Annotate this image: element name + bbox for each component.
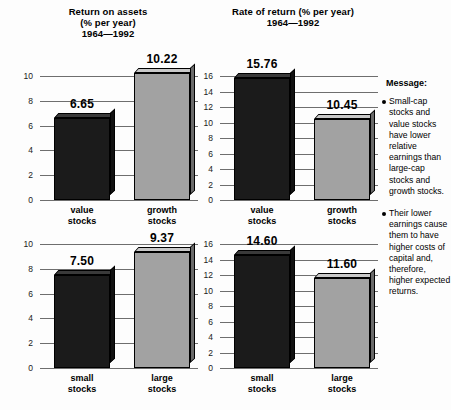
y-axis-tick-label: 6 — [12, 122, 33, 130]
y-axis-tick-label: 8 — [12, 265, 33, 273]
plot-area: 024681012141615.76valuestocks10.45growth… — [192, 62, 382, 212]
gridline — [40, 368, 198, 369]
bar-front-face — [134, 252, 190, 368]
y-axis-tick-label: 4 — [12, 314, 33, 322]
y-axis-tick-label: 2 — [12, 171, 33, 179]
gridline — [220, 200, 378, 201]
bar[interactable] — [314, 278, 370, 368]
category-line-1: large — [302, 373, 382, 384]
title-line-2: 1964—1992 — [203, 17, 383, 28]
title-line-3: 1964—1992 — [18, 28, 198, 39]
y-axis-tick-label: 10 — [192, 287, 213, 295]
category-line-1: growth — [302, 205, 382, 216]
bar-top-face — [234, 250, 295, 255]
y-axis-tick-label: 8 — [192, 302, 213, 310]
bar[interactable] — [234, 78, 290, 200]
bar-side-face — [370, 109, 375, 194]
bar-side-face — [290, 68, 295, 195]
bar-value-label: 10.45 — [302, 98, 382, 112]
bar[interactable] — [54, 275, 110, 368]
x-axis-category-label: valuestocks — [222, 205, 302, 227]
plot-area: 02468107.50smallstocks9.37largestocks — [12, 230, 202, 380]
title-line-1: Rate of return (% per year) — [203, 6, 383, 17]
bullet-dot-icon — [382, 212, 386, 216]
plot-area: 024681012141614.60smallstocks11.60larges… — [192, 230, 382, 380]
y-axis-tick-label: 14 — [192, 88, 213, 96]
category-line-2: stocks — [302, 216, 382, 227]
y-axis-tick-label: 6 — [12, 290, 33, 298]
y-axis-tick-label: 6 — [192, 318, 213, 326]
bar-front-face — [234, 255, 290, 368]
bar-value-label: 10.22 — [122, 52, 202, 66]
bar[interactable] — [54, 118, 110, 200]
bar[interactable] — [134, 252, 190, 368]
y-axis-tick-label: 8 — [12, 97, 33, 105]
y-axis-tick-label: 4 — [192, 333, 213, 341]
message-title: Message: — [386, 78, 451, 89]
bar-top-face — [54, 270, 115, 275]
message-panel: Message: Small-cap stocks and value stoc… — [382, 78, 451, 309]
chart-title-return-on-assets: Return on assets (% per year) 1964—1992 — [18, 6, 198, 39]
bar-value-label: 14.60 — [222, 234, 302, 248]
y-axis-tick-label: 0 — [192, 364, 213, 372]
category-line-1: value — [42, 205, 122, 216]
y-axis-tick-label: 14 — [192, 256, 213, 264]
y-axis-tick-label: 12 — [192, 103, 213, 111]
chart-title-rate-of-return: Rate of return (% per year) 1964—1992 — [203, 6, 383, 28]
bar-front-face — [134, 73, 190, 200]
x-axis-category-label: valuestocks — [42, 205, 122, 227]
x-axis-category-label: smallstocks — [222, 373, 302, 395]
chart-panel-rate-of-return-size: 024681012141614.60smallstocks11.60larges… — [192, 230, 382, 380]
y-axis-tick-label: 10 — [12, 240, 33, 248]
x-axis-category-label: growthstocks — [302, 205, 382, 227]
y-axis-tick-label: 2 — [192, 349, 213, 357]
slide-canvas: Return on assets (% per year) 1964—1992 … — [0, 0, 451, 410]
message-bullet-text: Their lower earnings cause them to have … — [389, 208, 451, 298]
bar-side-face — [110, 265, 115, 363]
category-line-1: small — [42, 373, 122, 384]
y-axis-tick-label: 10 — [192, 119, 213, 127]
category-line-1: large — [122, 373, 202, 384]
bar-front-face — [54, 275, 110, 368]
bar-value-label: 6.65 — [42, 97, 122, 111]
title-line-2: (% per year) — [18, 17, 198, 28]
plot-area: 02468106.65valuestocks10.22growthstocks — [12, 62, 202, 212]
y-axis-tick-label: 12 — [192, 271, 213, 279]
bar-value-label: 15.76 — [222, 57, 302, 71]
bar-front-face — [314, 119, 370, 200]
y-axis-tick-label: 0 — [192, 196, 213, 204]
y-axis-tick-label: 2 — [192, 181, 213, 189]
category-line-1: value — [222, 205, 302, 216]
y-axis-tick-label: 16 — [192, 72, 213, 80]
message-bullet-item: Their lower earnings cause them to have … — [382, 208, 451, 298]
bar-side-face — [290, 245, 295, 363]
category-line-2: stocks — [222, 216, 302, 227]
y-axis-tick-label: 16 — [192, 240, 213, 248]
bar-top-face — [314, 273, 375, 278]
bar-side-face — [370, 269, 375, 363]
category-line-2: stocks — [302, 384, 382, 395]
bar-side-face — [110, 108, 115, 195]
bar[interactable] — [234, 255, 290, 368]
x-axis-category-label: largestocks — [302, 373, 382, 395]
bar-value-label: 11.60 — [302, 257, 382, 271]
y-axis-tick-label: 8 — [192, 134, 213, 142]
chart-panel-rate-of-return: 024681012141615.76valuestocks10.45growth… — [192, 62, 382, 212]
x-axis-category-label: largestocks — [122, 373, 202, 395]
chart-panel-return-on-assets-size: 02468107.50smallstocks9.37largestocks — [12, 230, 202, 380]
y-axis-tick-label: 4 — [12, 146, 33, 154]
bar-top-face — [134, 68, 195, 73]
category-line-2: stocks — [42, 216, 122, 227]
y-axis-tick-label: 4 — [192, 165, 213, 173]
x-axis-category-label: growthstocks — [122, 205, 202, 227]
bar-top-face — [54, 113, 115, 118]
bar-front-face — [314, 278, 370, 368]
chart-panel-return-on-assets: 02468106.65valuestocks10.22growthstocks — [12, 62, 202, 212]
bar-top-face — [234, 73, 295, 78]
category-line-2: stocks — [122, 216, 202, 227]
bar-top-face — [134, 247, 195, 252]
bar[interactable] — [134, 73, 190, 200]
bar-top-face — [314, 114, 375, 119]
bar[interactable] — [314, 119, 370, 200]
bar-front-face — [54, 118, 110, 200]
